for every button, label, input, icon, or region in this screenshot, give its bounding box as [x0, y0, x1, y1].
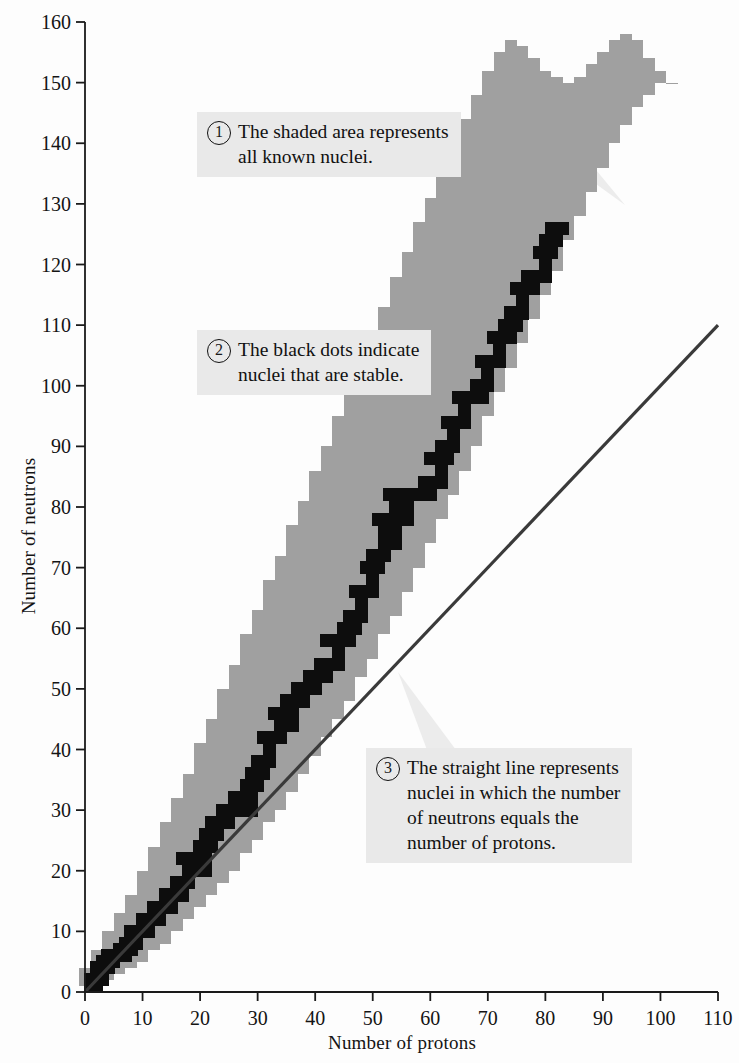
- annotation-callout-3: 3 The straight line represents nuclei in…: [366, 748, 632, 863]
- svg-text:30: 30: [248, 1007, 268, 1029]
- svg-text:100: 100: [41, 375, 71, 397]
- annotation-3-line-2: nuclei in which the number: [407, 780, 620, 805]
- annotation-1-line-1: The shaded area represents: [238, 119, 449, 144]
- svg-text:20: 20: [190, 1007, 210, 1029]
- svg-text:0: 0: [61, 981, 71, 1003]
- svg-text:40: 40: [305, 1007, 325, 1029]
- svg-text:10: 10: [51, 920, 71, 942]
- annotation-2-line-1: The black dots indicate: [238, 337, 419, 362]
- annotation-number-3: 3: [376, 757, 400, 781]
- annotation-callout-2: 2 The black dots indicate nuclei that ar…: [197, 330, 431, 395]
- svg-text:60: 60: [420, 1007, 440, 1029]
- svg-text:30: 30: [51, 799, 71, 821]
- annotation-text-3: The straight line represents nuclei in w…: [407, 755, 620, 855]
- svg-text:100: 100: [645, 1007, 675, 1029]
- svg-text:140: 140: [41, 132, 71, 154]
- svg-text:90: 90: [593, 1007, 613, 1029]
- svg-text:20: 20: [51, 860, 71, 882]
- svg-text:110: 110: [703, 1007, 732, 1029]
- svg-text:110: 110: [42, 314, 71, 336]
- svg-text:80: 80: [535, 1007, 555, 1029]
- x-axis-title: Number of protons: [85, 1032, 719, 1054]
- svg-text:50: 50: [363, 1007, 383, 1029]
- svg-text:40: 40: [51, 739, 71, 761]
- svg-text:60: 60: [51, 617, 71, 639]
- svg-text:70: 70: [478, 1007, 498, 1029]
- annotation-callout-1: 1 The shaded area represents all known n…: [197, 112, 461, 177]
- annotation-1-line-2: all known nuclei.: [238, 144, 449, 169]
- svg-text:10: 10: [133, 1007, 153, 1029]
- svg-text:120: 120: [41, 254, 71, 276]
- svg-text:160: 160: [41, 11, 71, 33]
- annotation-3-line-4: number of protons.: [407, 830, 620, 855]
- svg-text:0: 0: [80, 1007, 90, 1029]
- annotation-2-line-2: nuclei that are stable.: [238, 362, 419, 387]
- svg-text:150: 150: [41, 72, 71, 94]
- svg-text:130: 130: [41, 193, 71, 215]
- svg-text:90: 90: [51, 435, 71, 457]
- annotation-text-2: The black dots indicate nuclei that are …: [238, 337, 419, 387]
- svg-text:70: 70: [51, 557, 71, 579]
- annotation-number-2: 2: [207, 339, 231, 363]
- svg-text:50: 50: [51, 678, 71, 700]
- nuclide-chart: 0102030405060708090100110010203040506070…: [0, 0, 739, 1063]
- y-axis-title: Number of neutrons: [18, 421, 40, 651]
- svg-text:80: 80: [51, 496, 71, 518]
- annotation-number-1: 1: [207, 121, 231, 145]
- annotation-3-line-3: of neutrons equals the: [407, 805, 620, 830]
- annotation-3-line-1: The straight line represents: [407, 755, 620, 780]
- annotation-text-1: The shaded area represents all known nuc…: [238, 119, 449, 169]
